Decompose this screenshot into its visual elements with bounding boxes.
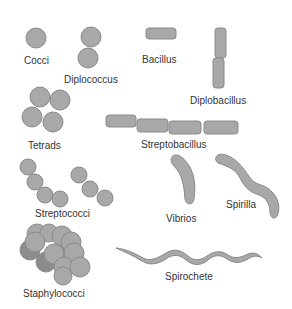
label-staphylococci: Staphylococci (23, 288, 85, 299)
diplobacillus-shape (213, 28, 226, 88)
label-spirochete: Spirochete (165, 271, 213, 282)
label-streptobacillus: Streptobacillus (141, 139, 207, 150)
cocci-shape (26, 28, 46, 48)
label-streptococci: Streptococci (35, 208, 90, 219)
streptococci-shape (20, 159, 113, 207)
bacillus-shape (146, 28, 176, 39)
diplococcus-shape (78, 27, 101, 68)
label-vibrios: Vibrios (166, 213, 196, 224)
label-tetrads: Tetrads (28, 140, 61, 151)
vibrios-shape (171, 155, 195, 204)
spirochete-shape (116, 248, 262, 265)
tetrads-shape (22, 87, 70, 132)
label-diplococcus: Diplococcus (64, 74, 118, 85)
label-diplobacillus: Diplobacillus (190, 95, 246, 106)
label-spirilla: Spirilla (226, 199, 256, 210)
label-bacillus: Bacillus (142, 54, 176, 65)
staphylococci-shape (20, 224, 90, 285)
streptobacillus-shape (106, 115, 238, 134)
bacteria-shapes-diagram (0, 0, 292, 309)
label-cocci: Cocci (24, 55, 49, 66)
